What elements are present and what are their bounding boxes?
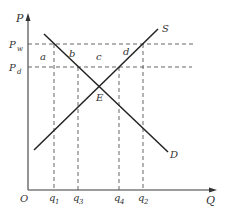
x-axis-label: Q — [206, 194, 215, 207]
q2-label: q 2 — [138, 192, 149, 206]
svg-text:w: w — [17, 45, 23, 53]
svg-text:d: d — [17, 68, 22, 76]
svg-text:2: 2 — [143, 198, 149, 206]
equilibrium-label: E — [95, 92, 104, 103]
demand-curve — [44, 34, 168, 152]
region-c-label: c — [96, 51, 102, 62]
y-axis-label: P — [15, 12, 24, 25]
origin-label: O — [20, 193, 28, 204]
region-b-label: b — [69, 48, 75, 59]
demand-label: D — [169, 149, 178, 160]
svg-text:P: P — [8, 39, 16, 50]
svg-text:3: 3 — [79, 198, 84, 206]
supply-demand-diagram: P Q O P w P d q 1 q 3 q 4 q 2 S D E a b … — [0, 0, 225, 213]
y-axis-arrow-icon — [26, 13, 31, 21]
q4-label: q 4 — [114, 192, 124, 206]
pd-label: P d — [8, 62, 22, 76]
pw-label: P w — [8, 39, 23, 53]
supply-label: S — [162, 23, 169, 34]
svg-text:4: 4 — [119, 198, 124, 206]
supply-curve — [34, 29, 158, 150]
price-lines — [28, 44, 196, 67]
q3-label: q 3 — [73, 192, 84, 206]
region-d-label: d — [123, 46, 129, 57]
region-a-label: a — [40, 51, 46, 62]
svg-text:1: 1 — [55, 198, 59, 206]
x-axis-arrow-icon — [209, 188, 217, 193]
q1-label: q 1 — [49, 192, 59, 206]
svg-text:P: P — [8, 62, 16, 73]
